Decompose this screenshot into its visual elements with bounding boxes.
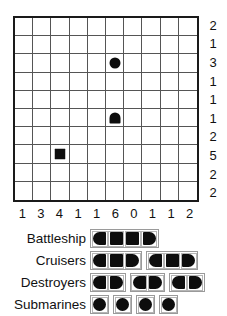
grid-cell-r1-c1[interactable] [15,18,33,36]
grid-cell-r5-c6[interactable] [106,91,124,109]
grid-cell-r1-c8[interactable] [142,18,160,36]
grid-cell-r3-c9[interactable] [161,54,179,72]
grid-cell-r4-c10[interactable] [179,73,197,91]
ship-submarines-2[interactable] [113,295,132,314]
ship-destroyers-2[interactable] [130,273,166,292]
ship-battleship-1[interactable] [90,229,159,248]
grid-cell-r10-c1[interactable] [15,182,33,200]
grid-cell-r2-c6[interactable] [106,36,124,54]
grid-cell-r8-c1[interactable] [15,145,33,163]
grid-cell-r3-c1[interactable] [15,54,33,72]
grid-cell-r2-c4[interactable] [70,36,88,54]
grid-cell-r5-c3[interactable] [51,91,69,109]
grid-cell-r4-c2[interactable] [33,73,51,91]
grid-cell-r3-c8[interactable] [142,54,160,72]
grid-cell-r5-c7[interactable] [124,91,142,109]
grid-cell-r4-c6[interactable] [106,73,124,91]
grid-cell-r10-c8[interactable] [142,182,160,200]
grid-cell-r8-c8[interactable] [142,145,160,163]
grid-cell-r6-c10[interactable] [179,109,197,127]
grid-cell-r9-c1[interactable] [15,164,33,182]
grid-cell-r8-c10[interactable] [179,145,197,163]
grid-cell-r10-c7[interactable] [124,182,142,200]
puzzle-grid[interactable] [13,16,199,202]
grid-cell-r9-c7[interactable] [124,164,142,182]
grid-cell-r8-c2[interactable] [33,145,51,163]
grid-cell-r7-c4[interactable] [70,127,88,145]
grid-cells[interactable] [15,18,197,200]
grid-cell-r10-c2[interactable] [33,182,51,200]
grid-cell-r2-c3[interactable] [51,36,69,54]
grid-cell-r2-c7[interactable] [124,36,142,54]
grid-cell-r6-c6[interactable] [106,109,124,127]
grid-cell-r10-c5[interactable] [88,182,106,200]
grid-cell-r3-c5[interactable] [88,54,106,72]
grid-cell-r7-c2[interactable] [33,127,51,145]
grid-cell-r4-c5[interactable] [88,73,106,91]
grid-cell-r4-c9[interactable] [161,73,179,91]
grid-cell-r3-c3[interactable] [51,54,69,72]
grid-cell-r3-c10[interactable] [179,54,197,72]
grid-cell-r9-c4[interactable] [70,164,88,182]
grid-cell-r3-c6[interactable] [106,54,124,72]
grid-cell-r4-c7[interactable] [124,73,142,91]
grid-cell-r2-c1[interactable] [15,36,33,54]
grid-cell-r1-c4[interactable] [70,18,88,36]
grid-cell-r8-c3[interactable] [51,145,69,163]
grid-cell-r10-c10[interactable] [179,182,197,200]
grid-cell-r9-c6[interactable] [106,164,124,182]
grid-cell-r1-c6[interactable] [106,18,124,36]
grid-cell-r7-c7[interactable] [124,127,142,145]
grid-cell-r6-c4[interactable] [70,109,88,127]
grid-cell-r5-c10[interactable] [179,91,197,109]
grid-cell-r3-c4[interactable] [70,54,88,72]
grid-cell-r4-c3[interactable] [51,73,69,91]
grid-cell-r5-c8[interactable] [142,91,160,109]
grid-cell-r6-c2[interactable] [33,109,51,127]
grid-cell-r2-c2[interactable] [33,36,51,54]
grid-cell-r3-c2[interactable] [33,54,51,72]
grid-cell-r1-c9[interactable] [161,18,179,36]
ship-submarines-1[interactable] [90,295,109,314]
grid-cell-r2-c9[interactable] [161,36,179,54]
grid-cell-r7-c3[interactable] [51,127,69,145]
grid-cell-r2-c8[interactable] [142,36,160,54]
grid-cell-r6-c5[interactable] [88,109,106,127]
grid-cell-r8-c4[interactable] [70,145,88,163]
grid-cell-r1-c7[interactable] [124,18,142,36]
grid-cell-r8-c7[interactable] [124,145,142,163]
grid-cell-r9-c3[interactable] [51,164,69,182]
grid-cell-r4-c8[interactable] [142,73,160,91]
grid-cell-r2-c5[interactable] [88,36,106,54]
grid-cell-r5-c9[interactable] [161,91,179,109]
grid-cell-r7-c1[interactable] [15,127,33,145]
grid-cell-r5-c4[interactable] [70,91,88,109]
ship-cruisers-2[interactable] [146,251,198,270]
grid-cell-r9-c9[interactable] [161,164,179,182]
grid-cell-r6-c7[interactable] [124,109,142,127]
grid-cell-r8-c6[interactable] [106,145,124,163]
grid-cell-r9-c8[interactable] [142,164,160,182]
grid-cell-r10-c3[interactable] [51,182,69,200]
grid-cell-r10-c6[interactable] [106,182,124,200]
grid-cell-r6-c8[interactable] [142,109,160,127]
grid-cell-r2-c10[interactable] [179,36,197,54]
ship-destroyers-1[interactable] [90,273,126,292]
grid-cell-r5-c2[interactable] [33,91,51,109]
grid-cell-r6-c3[interactable] [51,109,69,127]
grid-cell-r6-c1[interactable] [15,109,33,127]
grid-cell-r10-c4[interactable] [70,182,88,200]
grid-cell-r9-c5[interactable] [88,164,106,182]
grid-cell-r9-c2[interactable] [33,164,51,182]
grid-cell-r1-c10[interactable] [179,18,197,36]
grid-cell-r7-c6[interactable] [106,127,124,145]
grid-cell-r8-c5[interactable] [88,145,106,163]
grid-cell-r5-c5[interactable] [88,91,106,109]
grid-cell-r4-c4[interactable] [70,73,88,91]
grid-cell-r3-c7[interactable] [124,54,142,72]
grid-cell-r7-c10[interactable] [179,127,197,145]
grid-cell-r7-c9[interactable] [161,127,179,145]
ship-cruisers-1[interactable] [90,251,142,270]
grid-cell-r7-c5[interactable] [88,127,106,145]
grid-cell-r7-c8[interactable] [142,127,160,145]
